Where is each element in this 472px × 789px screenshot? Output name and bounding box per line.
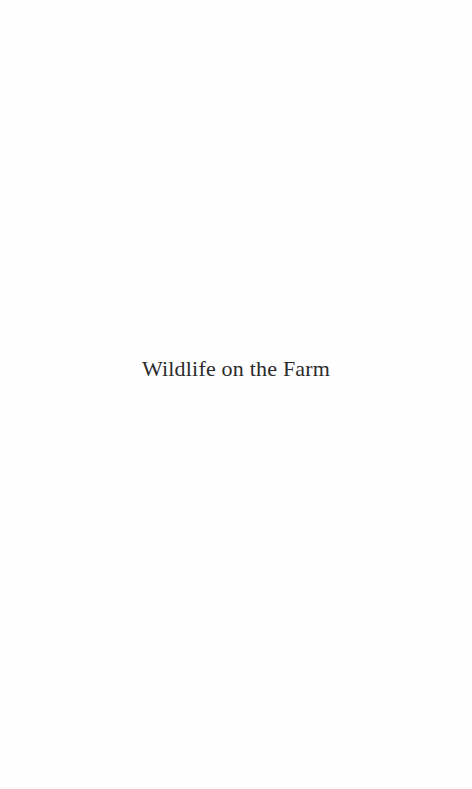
half-title: Wildlife on the Farm: [0, 356, 472, 382]
book-page: Wildlife on the Farm: [0, 0, 472, 789]
